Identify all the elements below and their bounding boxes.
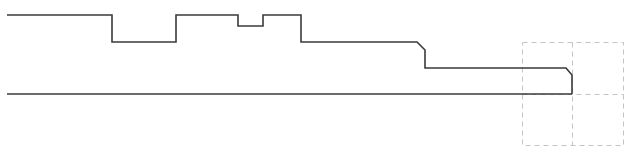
drawing-canvas — [0, 0, 630, 150]
shaft-profile-outline — [7, 15, 572, 94]
